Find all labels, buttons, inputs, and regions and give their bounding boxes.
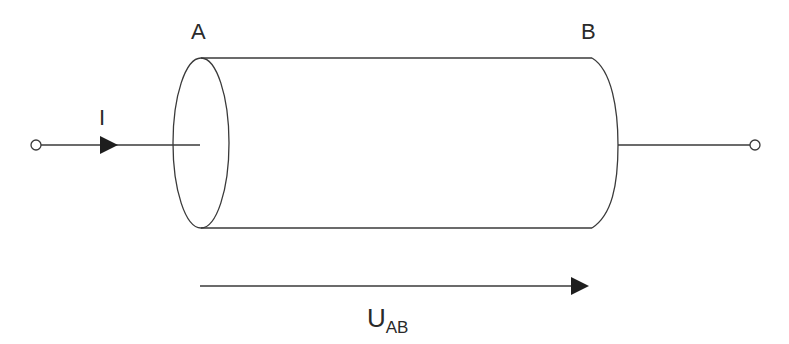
label-current: I [99, 105, 105, 130]
label-point-a: A [191, 19, 206, 44]
cylinder-conductor [173, 58, 618, 228]
cross-section-a [173, 58, 229, 228]
cross-section-b [592, 58, 618, 228]
current-arrow-icon [100, 136, 118, 154]
label-voltage-main: U [367, 303, 386, 333]
label-voltage: UAB [367, 303, 408, 337]
conductor-diagram: A B I UAB [0, 0, 789, 344]
left-terminal [31, 140, 41, 150]
voltage-arrow-icon [571, 277, 589, 295]
label-voltage-sub: AB [386, 318, 409, 337]
right-terminal [750, 140, 760, 150]
label-point-b: B [581, 19, 596, 44]
